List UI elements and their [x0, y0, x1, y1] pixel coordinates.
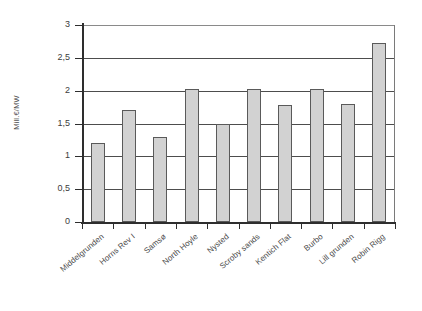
bar [216, 124, 230, 223]
y-axis-tick [75, 58, 82, 59]
y-axis-tick-label: 1 [30, 150, 70, 160]
y-axis-line [82, 23, 84, 224]
y-axis-tick [75, 189, 82, 190]
x-axis-tick [145, 222, 146, 229]
bar [310, 89, 324, 222]
x-axis-tick [82, 222, 83, 229]
y-axis-tick [75, 25, 82, 26]
y-axis-tick-label: 0,5 [30, 183, 70, 193]
bar [247, 89, 261, 222]
y-axis-tick-label: 3 [30, 19, 70, 29]
x-axis-tick [270, 222, 271, 229]
y-axis-tick [75, 91, 82, 92]
bar [91, 143, 105, 222]
x-axis-tick [113, 222, 114, 229]
y-axis-tick [75, 124, 82, 125]
bar-chart-figure: Mill.€/MW 00,511,522,53 MiddelgrundenHor… [0, 0, 422, 311]
bar [122, 110, 136, 222]
gridline [82, 58, 395, 59]
x-axis-tick [395, 222, 396, 229]
plot-frame-right-edge [394, 25, 395, 222]
y-axis-tick [75, 222, 82, 223]
x-axis-tick [207, 222, 208, 229]
bar [278, 105, 292, 222]
x-axis-tick [332, 222, 333, 229]
x-axis-tick [301, 222, 302, 229]
x-axis-tick [364, 222, 365, 229]
y-axis-tick-label: 0 [30, 216, 70, 226]
bar [185, 89, 199, 222]
y-axis-tick-label: 1,5 [30, 118, 70, 128]
y-axis-tick-label: 2 [30, 85, 70, 95]
x-axis-tick [176, 222, 177, 229]
bar [153, 137, 167, 222]
bar [341, 104, 355, 222]
y-axis-tick [75, 156, 82, 157]
x-axis-tick [239, 222, 240, 229]
gridline [82, 25, 395, 26]
plot-area [82, 25, 395, 222]
y-axis-title: Mill.€/MW [12, 78, 21, 148]
gridline [82, 91, 395, 92]
bar [372, 43, 386, 222]
y-axis-tick-label: 2,5 [30, 52, 70, 62]
